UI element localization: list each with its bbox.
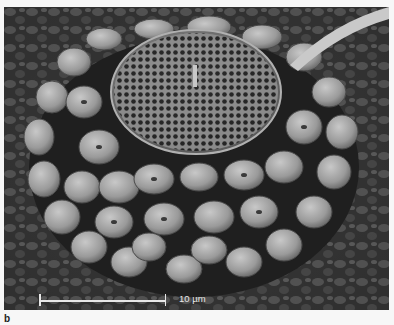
scale-bar-label: 10 µm	[179, 293, 206, 304]
coccolithophore-illustration	[4, 7, 389, 310]
scale-bar-right-tick	[165, 294, 167, 306]
micrograph-image: 10 µm	[4, 7, 389, 310]
scale-bar-left-tick	[39, 294, 41, 306]
scale-bar-line	[39, 300, 166, 302]
panel-label: b	[4, 313, 10, 324]
scale-bar	[39, 294, 166, 306]
